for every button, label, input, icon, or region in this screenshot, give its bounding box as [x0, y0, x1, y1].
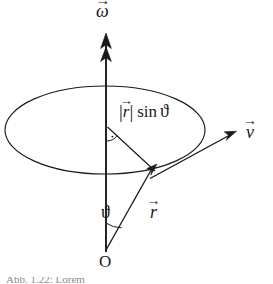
origin-label: O	[99, 253, 111, 270]
rsin-r-symbol: r	[123, 102, 130, 121]
right-angle-dot	[111, 136, 113, 138]
v-vector-shaft	[150, 136, 229, 179]
rsin-angle-symbol: ϑ	[160, 101, 169, 121]
r-vector-shaft	[106, 168, 153, 251]
r-symbol: r	[150, 202, 157, 222]
v-label: →v	[246, 123, 254, 141]
diagram-canvas	[0, 0, 273, 284]
orbit-ellipse	[5, 86, 205, 174]
v-vector-arrowhead	[224, 131, 236, 140]
abs-bar-close: |	[129, 101, 133, 122]
v-symbol: v	[246, 122, 254, 142]
omega-label: →ω	[96, 2, 109, 20]
radius-expression-label: |→r|sinϑ	[119, 102, 169, 121]
rotation-vector-diagram: →ω →v →r |→r|sinϑ ϑ O Abb. 1.22: Lorem	[0, 0, 273, 284]
r-label: →r	[150, 203, 157, 221]
figure-caption-clipped: Abb. 1.22: Lorem	[6, 277, 126, 284]
theta-angle-label: ϑ	[101, 203, 110, 221]
sin-function-label: sin	[137, 102, 157, 121]
omega-symbol: ω	[96, 1, 109, 21]
figure-caption-text: Abb. 1.22: Lorem	[6, 277, 85, 284]
perpendicular-radius-line	[108, 127, 156, 171]
